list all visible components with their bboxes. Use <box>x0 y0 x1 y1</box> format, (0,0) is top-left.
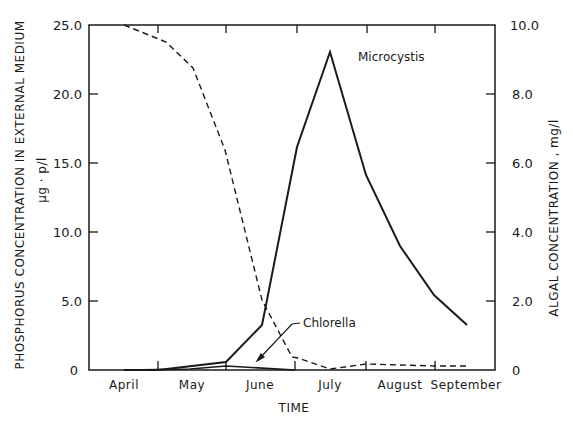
right-tick-6: 6.0 <box>512 156 533 171</box>
left-tick-5: 5.0 <box>61 294 82 309</box>
x-axis-title: TIME <box>278 401 310 415</box>
right-tick-0: 0 <box>512 363 520 378</box>
microcystis-label: Microcystis <box>358 50 425 64</box>
left-axis-ticks <box>89 94 98 301</box>
right-tick-labels: 10.0 8.0 6.0 4.0 2.0 0 <box>510 18 539 378</box>
right-axis-title: ALGAL CONCENTRATION , mg/l <box>547 119 561 317</box>
left-tick-0: 0 <box>70 363 78 378</box>
right-axis-ticks <box>486 94 495 301</box>
left-tick-25: 25.0 <box>53 18 82 33</box>
chlorella-arrow-icon <box>257 323 300 361</box>
right-tick-10: 10.0 <box>510 18 539 33</box>
month-september: September <box>431 378 502 392</box>
month-labels: April May June July August September <box>109 378 501 392</box>
month-may: May <box>179 378 205 392</box>
left-tick-10: 10.0 <box>53 225 82 240</box>
left-axis-units: μg · p/l <box>35 157 49 203</box>
left-tick-15: 15.0 <box>53 156 82 171</box>
top-axis-ticks <box>158 25 435 33</box>
month-july: July <box>317 378 342 392</box>
chart: 25.0 20.0 15.0 10.0 5.0 0 10.0 8.0 6.0 4… <box>0 0 573 426</box>
microcystis-series-line <box>124 52 467 370</box>
left-tick-labels: 25.0 20.0 15.0 10.0 5.0 0 <box>53 18 82 378</box>
left-axis-title: PHOSPHORUS CONCENTRATION IN EXTERNAL MED… <box>13 20 27 369</box>
chlorella-label: Chlorella <box>303 316 356 330</box>
month-april: April <box>109 378 139 392</box>
month-june: June <box>245 378 274 392</box>
left-tick-20: 20.0 <box>53 87 82 102</box>
right-tick-4: 4.0 <box>512 225 533 240</box>
month-august: August <box>378 378 423 392</box>
right-tick-2: 2.0 <box>512 294 533 309</box>
phosphorus-series-line <box>124 25 470 369</box>
right-tick-8: 8.0 <box>512 87 533 102</box>
plot-frame <box>89 25 495 370</box>
